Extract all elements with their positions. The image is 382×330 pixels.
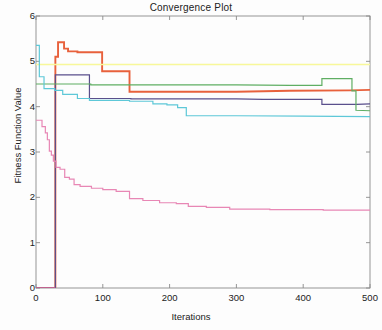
- y-axis-label: Fitness Function Value: [12, 66, 23, 206]
- series-line-run-6-pink: [36, 120, 370, 210]
- y-tick-label: 6: [13, 10, 35, 21]
- series-line-run-1-red: [36, 42, 370, 288]
- x-tick-label: 0: [16, 292, 56, 303]
- y-tick-label: 3: [13, 146, 35, 157]
- y-tick-label: 5: [13, 55, 35, 66]
- x-axis-label: Iterations: [0, 311, 382, 322]
- plot-canvas: [0, 0, 382, 330]
- series-line-run-5-cyan: [36, 45, 370, 116]
- x-tick-label: 200: [150, 292, 190, 303]
- x-tick-label: 500: [350, 292, 382, 303]
- series-line-run-3-navy: [36, 75, 370, 288]
- x-tick-label: 400: [283, 292, 323, 303]
- convergence-plot-figure: Convergence Plot Fitness Function Value …: [0, 0, 382, 330]
- y-tick-label: 4: [13, 101, 35, 112]
- x-tick-label: 300: [216, 292, 256, 303]
- axes-frame: [36, 16, 370, 288]
- x-tick-label: 100: [83, 292, 123, 303]
- y-tick-label: 1: [13, 237, 35, 248]
- series-line-run-4-green: [36, 79, 370, 111]
- y-tick-label: 2: [13, 191, 35, 202]
